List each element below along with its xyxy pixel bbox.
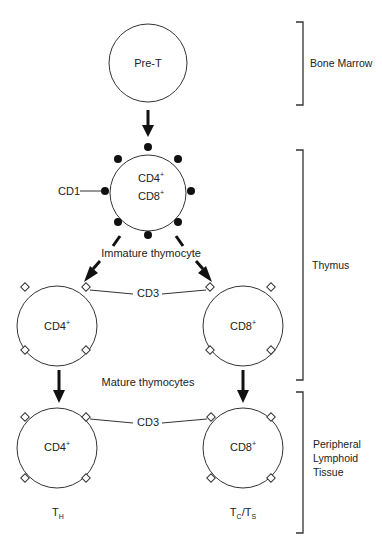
mature-cd8-sup: +	[252, 319, 256, 326]
pre-t-label: Pre-T	[134, 57, 162, 70]
peripheral-cd4-text: CD4	[44, 441, 66, 453]
mature-thymocytes-caption: Mature thymocytes	[102, 376, 195, 389]
region-peripheral-line-1: Peripheral	[313, 437, 361, 451]
mature-cd8-text: CD8	[230, 320, 252, 332]
region-thymus: Thymus	[312, 258, 349, 272]
mature-cd8-label: CD8+	[230, 320, 256, 333]
bracket-bone-marrow	[296, 22, 303, 105]
th-text: T	[52, 506, 59, 518]
arrow-cd8-to-peripheral	[237, 370, 249, 403]
peripheral-cd4-label: CD4+	[44, 441, 70, 454]
region-bone-marrow: Bone Marrow	[310, 56, 372, 70]
immature-cd4-sup: +	[160, 171, 164, 178]
cd3-label-peripheral: CD3	[137, 416, 159, 429]
region-peripheral-lymphoid-tissue: Peripheral Lymphoid Tissue	[313, 437, 361, 479]
immature-cd8-text: CD8	[138, 190, 160, 202]
cd3-connector-mature-left	[90, 290, 133, 294]
cd3-label-mature: CD3	[137, 287, 159, 300]
tc-ts-label: TC/TS	[230, 506, 256, 519]
peripheral-cd8-text: CD8	[230, 441, 252, 453]
immature-cd8-label: CD8+	[138, 190, 164, 203]
cd1-label: CD1	[58, 185, 80, 198]
ts-text: T	[245, 506, 252, 518]
mature-cd4-text: CD4	[44, 320, 66, 332]
immature-cd4-text: CD4	[138, 172, 160, 184]
arrow-pre-t-to-immature	[142, 110, 154, 137]
peripheral-cd4-sup: +	[66, 440, 70, 447]
bracket-peripheral	[296, 392, 303, 533]
arrow-cd4-to-peripheral	[53, 370, 65, 403]
mature-cd4-label: CD4+	[44, 320, 70, 333]
immature-cd4-label: CD4+	[138, 172, 164, 185]
mature-cd4-sup: +	[66, 319, 70, 326]
region-peripheral-line-3: Tissue	[313, 465, 361, 479]
th-sub: H	[59, 513, 64, 520]
peripheral-cd8-label: CD8+	[230, 441, 256, 454]
region-peripheral-line-2: Lymphoid	[313, 451, 361, 465]
th-label: TH	[52, 506, 64, 519]
bracket-thymus	[296, 150, 303, 380]
cd3-connector-mature-right	[162, 290, 206, 294]
cd3-connector-peripheral-right	[162, 419, 207, 423]
tc-text: T	[230, 506, 237, 518]
cd3-connector-peripheral-left	[90, 419, 133, 423]
immature-cd8-sup: +	[160, 189, 164, 196]
immature-thymocyte-caption: Immature thymocyte	[101, 247, 201, 260]
peripheral-cd8-sup: +	[252, 440, 256, 447]
ts-sub: S	[251, 513, 256, 520]
